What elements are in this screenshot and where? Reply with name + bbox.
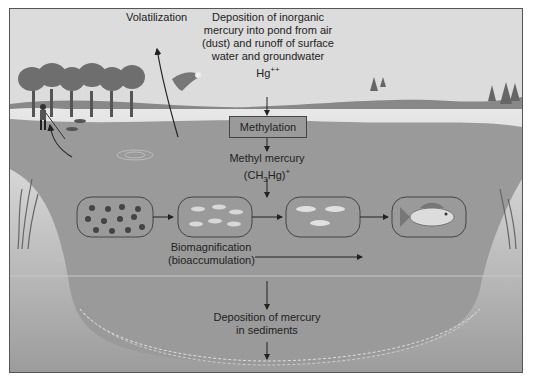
methyl-mercury-formula: (CH3Hg)+ [207,165,327,186]
sediment-line-1: Deposition of mercury [207,311,327,324]
bioaccumulation-text: (bioaccumulation) [168,254,254,267]
deposition-line-2: mercury into pond from air [200,24,336,37]
sediment-deposition-label: Deposition of mercury in sediments [207,311,327,337]
sediment-line-2: in sediments [207,324,327,337]
biomagnification-text: Biomagnification [168,241,254,254]
organism-box [178,197,252,237]
methylation-box: Methylation [229,116,307,138]
deposition-line-1: Deposition of inorganic [200,11,336,24]
deposition-line-4: water and groundwater [200,50,336,63]
methyl-mercury-label: Methyl mercury (CH3Hg)+ [207,152,327,186]
diagram-frame: Volatilization Deposition of inorganic m… [9,8,523,373]
volatilization-label: Volatilization [126,11,187,24]
deposition-line-3: (dust) and runoff of surface [200,37,336,50]
biomagnification-label: Biomagnification (bioaccumulation) [168,241,254,267]
small-fish-box [286,197,360,237]
methyl-mercury-text: Methyl mercury [207,152,327,165]
deposition-label: Deposition of inorganic mercury into pon… [200,11,336,80]
hg-ion-label: Hg++ [200,63,336,80]
